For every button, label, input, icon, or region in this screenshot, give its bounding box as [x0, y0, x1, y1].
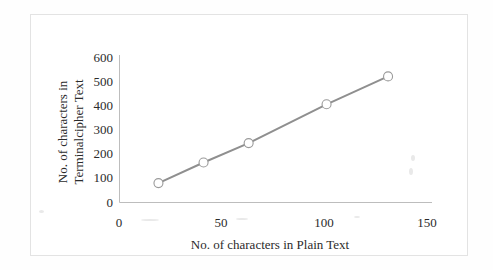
y-axis-title-line2: Terminalcipher Text: [71, 79, 86, 185]
y-tick-label-300: 300: [94, 122, 114, 137]
y-tick-label-0: 0: [107, 195, 114, 210]
y-tick-label-400: 400: [94, 98, 114, 113]
data-point-marker: [244, 139, 253, 148]
y-tick-label-500: 500: [94, 74, 114, 89]
data-point-marker: [154, 179, 163, 188]
figure-root: 600 500 400 300 200 100 0 No. of charact…: [0, 0, 493, 270]
y-tick-label-200: 200: [94, 146, 114, 161]
x-axis-title: No. of characters in Plain Text: [191, 237, 350, 252]
series-line: [158, 76, 388, 183]
y-axis-title-line1: No. of characters in: [55, 80, 70, 183]
x-tick-label-150: 150: [417, 215, 437, 230]
y-tick-label-600: 600: [94, 50, 114, 65]
x-tick-label-50: 50: [215, 215, 228, 230]
x-tick-label-0: 0: [116, 215, 123, 230]
data-point-marker: [322, 100, 331, 109]
y-tick-label-100: 100: [94, 170, 114, 185]
x-tick-label-100: 100: [314, 215, 334, 230]
line-chart: 600 500 400 300 200 100 0 No. of charact…: [0, 0, 493, 270]
data-point-marker: [199, 158, 208, 167]
data-point-marker: [384, 72, 393, 81]
data-series-terminalcipher: [154, 72, 393, 188]
